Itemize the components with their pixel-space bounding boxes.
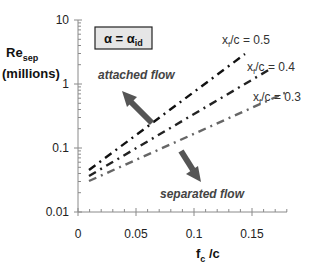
x-tick-0-1: 0.1 xyxy=(186,227,203,241)
x-tick-0: 0 xyxy=(75,227,82,241)
arrow-down-right-icon xyxy=(181,151,201,182)
y-tick-0-1: 0.1 xyxy=(52,141,69,155)
separated-flow-label: separated flow xyxy=(160,187,245,201)
chart: 10 1 0.1 0.01 0 0.05 0.1 0.15 Resep (mil… xyxy=(0,0,316,268)
y-tick-0-01: 0.01 xyxy=(46,205,70,219)
series-label-0-4: xf/c = 0.4 xyxy=(247,60,295,76)
y-axis-title: Resep xyxy=(6,45,39,63)
y-axis xyxy=(74,20,82,212)
arrow-up-left-icon xyxy=(122,91,152,123)
x-tick-0-15: 0.15 xyxy=(240,227,264,241)
series-line-0-4 xyxy=(89,68,272,176)
attached-flow-label: attached flow xyxy=(98,68,175,82)
alpha-box: α = αid xyxy=(95,27,152,49)
y-axis-units: (millions) xyxy=(2,66,60,81)
y-tick-10: 10 xyxy=(56,13,70,27)
series-label-0-5: xf/c = 0.5 xyxy=(222,33,270,49)
x-axis xyxy=(78,208,287,216)
x-axis-title: fc /c xyxy=(196,246,220,264)
x-tick-0-05: 0.05 xyxy=(124,227,148,241)
y-tick-1: 1 xyxy=(62,77,69,91)
series-label-0-3: xf/c = 0.3 xyxy=(253,90,301,106)
